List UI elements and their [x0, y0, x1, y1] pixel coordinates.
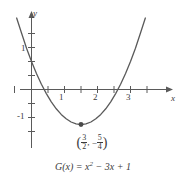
y-tick-label-minus-1: -1 — [17, 112, 25, 121]
x-tick-label-3: 3 — [126, 93, 131, 102]
vertex-point — [79, 122, 84, 127]
equation-equals: = — [76, 161, 83, 172]
equation-exponent-1: 2 — [90, 160, 94, 168]
x-axis-label: x — [171, 94, 175, 103]
parabola-figure: y x 1 -1 1 2 3 (32, −54) G(x) = x2 − 3x … — [0, 0, 186, 180]
vertex-close-paren: ) — [103, 135, 108, 150]
parabola-curve — [17, 18, 146, 125]
equation-plus: + — [117, 161, 124, 172]
vertex-comma: , — [87, 137, 89, 147]
x-axis-arrowhead — [166, 87, 173, 93]
vertex-coordinate-label: (32, −54) — [57, 134, 127, 152]
equation-caption: G(x) = x2 − 3x + 1 — [0, 160, 186, 172]
y-axis-label: y — [33, 9, 37, 18]
x-tick-label-1: 1 — [59, 93, 64, 102]
equation-close-paren: ) — [70, 161, 73, 172]
equation-minus: − — [96, 161, 103, 172]
equation-term-3: 1 — [126, 161, 131, 172]
y-tick-label-1: 1 — [21, 44, 26, 53]
graph-canvas — [0, 0, 186, 150]
equation-term-2: 3x — [105, 161, 114, 172]
x-tick-label-2: 2 — [93, 93, 98, 102]
